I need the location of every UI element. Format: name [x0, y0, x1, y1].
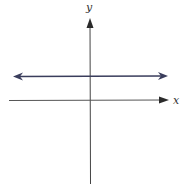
- y-axis-arrow-icon: [87, 18, 94, 28]
- y-axis: [87, 18, 94, 184]
- x-axis: [9, 97, 169, 104]
- y-axis-label: y: [85, 1, 93, 14]
- x-axis-label: x: [173, 94, 180, 107]
- coordinate-plane: y x: [0, 0, 180, 184]
- x-axis-arrow-icon: [159, 97, 169, 104]
